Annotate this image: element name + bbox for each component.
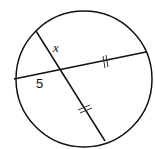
diagram: x 5 (0, 0, 155, 149)
circle-chords-figure (0, 0, 155, 149)
label-x: x (53, 40, 59, 56)
chord-horizontal (14, 52, 146, 79)
label-five: 5 (36, 76, 43, 91)
chord-diagonal (36, 31, 105, 141)
congruence-tick-horizontal (103, 55, 108, 68)
